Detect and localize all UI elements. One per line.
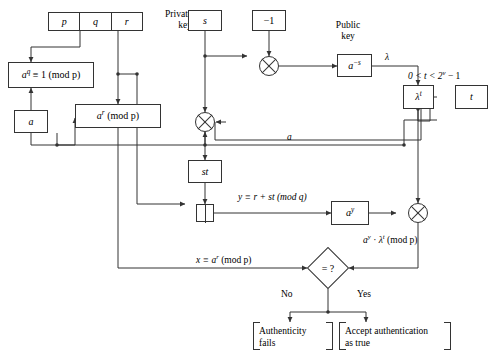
verifier-product-label: ay · λt (mod p) [363, 233, 417, 246]
multiplier-node-3[interactable] [408, 203, 428, 223]
a-power-y-text: ay [346, 207, 354, 218]
register-cell-q: q [80, 13, 111, 30]
public-key-text: a−s [348, 60, 361, 71]
challenge-range-label: 0 < t < 2v − 1 [408, 69, 460, 82]
branch-label-no: No [281, 289, 293, 300]
commitment-rest: (mod p) [107, 111, 139, 122]
private-key-label-line1: Private [150, 9, 192, 20]
generator-label: a [29, 117, 34, 127]
order-condition-box[interactable]: aq ≡ 1 (mod p) [8, 62, 94, 88]
public-key-label: Public key [318, 20, 378, 42]
wire-layer [0, 0, 497, 352]
lambda-wire-label: λ [385, 52, 389, 63]
outcome-accept-box[interactable]: Accept authentication as true [339, 322, 451, 350]
outcome-accept-line2: as true [345, 338, 445, 350]
commitment-value-tail: (mod p) [219, 255, 252, 265]
a-power-y-box[interactable]: ay [331, 201, 369, 225]
challenge-range-tail: − 1 [446, 71, 461, 81]
challenge-range-lead: 0 < t < 2 [408, 71, 442, 81]
generator-box[interactable]: a [14, 110, 48, 133]
lambda-power-text: λt [415, 91, 421, 102]
multiplier-node-1[interactable] [259, 56, 279, 76]
multiplier-node-2[interactable] [195, 112, 215, 132]
public-key-label-line2: key [318, 31, 378, 42]
challenge-label: t [470, 92, 473, 102]
outcome-fail-line2: fails [259, 338, 327, 350]
public-key-label-line1: Public [318, 20, 378, 31]
lambda-power-exponent: t [420, 90, 422, 98]
minus-one-box[interactable]: −1 [252, 10, 286, 31]
lambda-power-box[interactable]: λt [403, 85, 434, 109]
public-key-box[interactable]: a−s [337, 54, 372, 77]
secret-key-label: s [203, 16, 207, 26]
order-condition-exponent: q [27, 68, 31, 76]
register-cell-r: r [112, 13, 142, 30]
order-condition-rest: ≡ 1 (mod p) [33, 70, 81, 81]
parameter-register[interactable]: p q r [48, 12, 143, 31]
challenge-box[interactable]: t [455, 85, 488, 109]
public-key-exponent: −s [353, 59, 361, 67]
verifier-product-dot: · [371, 235, 379, 245]
st-product-box[interactable]: st [188, 160, 222, 183]
st-product-label: st [202, 167, 209, 177]
private-key-label-line2: key [150, 20, 192, 31]
commitment-box[interactable]: ar (mod p) [75, 104, 161, 128]
comparison-label: = ? [322, 263, 335, 274]
branch-label-yes: Yes [357, 289, 371, 300]
response-equation: y ≡ r + st (mod q) [238, 192, 307, 203]
order-condition-text: aq ≡ 1 (mod p) [22, 69, 81, 80]
commitment-value-label: x ≡ ar (mod p) [196, 253, 252, 266]
outcome-accept-line1: Accept authentication [345, 326, 445, 338]
verifier-product-tail: (mod p) [385, 235, 418, 245]
commitment-value-lead: x ≡ a [196, 255, 216, 265]
private-key-label: Private key [150, 9, 192, 31]
a-power-y-exponent: y [351, 206, 354, 214]
protocol-diagram: p q r aq ≡ 1 (mod p) a ar (mod p) Privat… [0, 0, 497, 352]
minus-one-label: −1 [264, 16, 275, 26]
outcome-fail-box[interactable]: Authenticity fails [253, 322, 333, 350]
outcome-fail-line1: Authenticity [259, 326, 327, 338]
commitment-exponent: r [102, 109, 105, 117]
commitment-text: ar (mod p) [97, 110, 139, 121]
register-cell-p: p [49, 13, 80, 30]
secret-key-box[interactable]: s [188, 10, 222, 31]
adder-node[interactable] [196, 204, 214, 222]
a-bus-label: a [287, 132, 292, 143]
